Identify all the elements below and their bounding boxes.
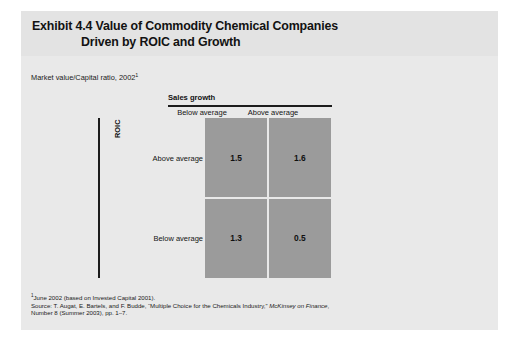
roic-growth-matrix-chart: Sales growth Below average Above average… [21,11,498,330]
matrix-cell: 1.6 [269,118,331,197]
footnote-source-line: Source: T. Augat, E. Bartels, and F. Bud… [31,302,451,310]
y-axis-tick-label-below-average: Below average [125,234,203,243]
footnote-line-1: 1June 2002 (based on Invested Capital 20… [31,294,451,302]
matrix-cell: 1.3 [205,199,267,278]
x-axis-tick-label-below-average: Below average [171,108,233,117]
footnote-source-prefix: Source: T. Augat, E. Bartels, and F. Bud… [31,302,269,309]
footnote-source-publication: McKinsey on Finance [269,302,327,309]
matrix-cell: 0.5 [269,199,331,278]
x-axis-rule [168,105,332,107]
y-axis-tick-label-above-average: Above average [125,154,203,163]
footnote-line-3: Number 8 (Summer 2003), pp. 1–7. [31,309,451,317]
y-axis-title: ROIC [113,120,122,154]
matrix-grid: 1.5 1.6 1.3 0.5 [205,118,331,278]
matrix-cell: 1.5 [205,118,267,197]
footnote-source-suffix: , [328,302,330,309]
footnotes: 1June 2002 (based on Invested Capital 20… [31,294,451,317]
footnote-line-1-text: June 2002 (based on Invested Capital 200… [34,294,156,301]
y-axis-rule [98,118,100,278]
x-axis-tick-label-above-average: Above average [237,108,309,117]
matrix-cell-value: 1.6 [269,153,331,163]
matrix-cell-value: 0.5 [269,233,331,243]
matrix-cell-value: 1.5 [205,153,267,163]
matrix-cell-value: 1.3 [205,233,267,243]
exhibit-page: Exhibit 4.4 Value of Commodity Chemical … [21,11,498,330]
x-axis-title: Sales growth [168,93,215,102]
